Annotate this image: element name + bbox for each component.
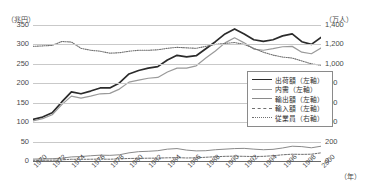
gridline: [33, 64, 321, 65]
chart-legend: 出荷額（左軸）内需（左軸）輸出額（左軸）輸入額（左軸）従業員（右軸）: [247, 71, 333, 127]
y-axis-left-tick-label: 300: [3, 40, 29, 48]
x-axis-unit-label: （年）: [340, 171, 361, 181]
gridline: [33, 44, 321, 45]
legend-item[interactable]: 輸出額（左軸）: [252, 94, 329, 104]
y-axis-left-tick-label: 250: [3, 60, 29, 68]
legend-swatch-icon: [252, 89, 272, 90]
legend-swatch-icon: [252, 79, 272, 80]
shipment-employment-chart: （兆円） （万人） （年） 350300250200150100500 1,40…: [0, 0, 368, 189]
legend-swatch-icon: [252, 108, 272, 109]
gridline: [33, 25, 321, 26]
y-axis-left-tick-label: 50: [3, 138, 29, 146]
y-axis-right-tick-label: 200: [325, 138, 355, 146]
legend-item[interactable]: 従業員（右軸）: [252, 113, 329, 123]
y-axis-right-tick-label: 1,000: [325, 60, 355, 68]
y-axis-left-tick-label: 350: [3, 21, 29, 29]
y-axis-left-tick-label: 100: [3, 118, 29, 126]
y-axis-right-tick-label: 1,400: [325, 21, 355, 29]
legend-item-label: 内需（左軸）: [275, 84, 317, 94]
legend-item-label: 従業員（右軸）: [275, 113, 324, 123]
legend-swatch-icon: [252, 117, 272, 118]
legend-item-label: 輸入額（左軸）: [275, 103, 324, 113]
y-axis-right-tick-label: 1,200: [325, 40, 355, 48]
y-axis-left-tick-label: 0: [3, 157, 29, 165]
legend-item-label: 輸出額（左軸）: [275, 94, 324, 104]
y-axis-left-tick-label: 150: [3, 99, 29, 107]
y-axis-left-tick-label: 200: [3, 79, 29, 87]
gridline: [33, 142, 321, 143]
legend-swatch-icon: [252, 98, 272, 99]
legend-item-label: 出荷額（左軸）: [275, 75, 324, 85]
legend-item[interactable]: 輸入額（左軸）: [252, 104, 329, 114]
legend-item[interactable]: 内需（左軸）: [252, 85, 329, 95]
legend-item[interactable]: 出荷額（左軸）: [252, 75, 329, 85]
